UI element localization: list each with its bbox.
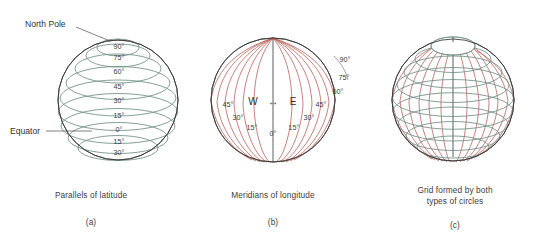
- panel-b-caption: Meridians of longitude: [182, 190, 364, 201]
- north-pole-label: North Pole: [25, 19, 66, 29]
- direction-indicator: W ↔ E: [248, 96, 296, 107]
- north-pole-point: [271, 37, 274, 40]
- latitude-label-0: 0°: [116, 125, 123, 134]
- latitude-label-60: 60°: [114, 67, 125, 76]
- longitude-label-90: 90°: [340, 55, 351, 64]
- panel-a-caption: Parallels of latitude: [0, 190, 182, 201]
- latitude-label-15s: 15°: [114, 137, 125, 146]
- panel-c-caption-line2: types of circles: [364, 196, 545, 207]
- latitude-label-30n: 30°: [114, 96, 125, 105]
- panel-b-illustration: W ↔ E 45° 30° 15° 0° 15° 30° 45°: [182, 0, 364, 186]
- latitude-label-75: 75°: [114, 53, 125, 62]
- west-label: W: [248, 96, 258, 107]
- longitude-arc-annotation: 90° 75° 60°: [333, 55, 351, 96]
- latitude-label-90: 90°: [114, 42, 125, 51]
- globe-figure: North Pole Equator 90° 75° 60° 45° 30° 1…: [0, 0, 545, 240]
- longitude-label-45w: 45°: [223, 100, 234, 109]
- north-pole-leader: [76, 27, 110, 41]
- panel-c-illustration: [364, 0, 545, 186]
- panel-a-illustration: North Pole Equator 90° 75° 60° 45° 30° 1…: [0, 0, 182, 186]
- panel-b-letter: (b): [182, 217, 364, 228]
- east-label: E: [290, 96, 297, 107]
- panel-parallels-of-latitude: North Pole Equator 90° 75° 60° 45° 30° 1…: [0, 0, 182, 240]
- panel-c-letter: (c): [364, 220, 545, 231]
- longitude-label-15e: 15°: [289, 123, 300, 132]
- longitude-label-45e: 45°: [316, 100, 327, 109]
- panel-grid-of-both-circles: Grid formed by both types of circles (c): [364, 0, 545, 240]
- panel-meridians-of-longitude: W ↔ E 45° 30° 15° 0° 15° 30° 45°: [182, 0, 364, 240]
- globe-c: [392, 37, 514, 162]
- latitude-label-30s: 30°: [114, 148, 125, 157]
- longitude-label-30e: 30°: [304, 113, 315, 122]
- direction-arrow-icon: ↔: [268, 96, 278, 107]
- equator-label: Equator: [10, 126, 40, 136]
- latitude-label-15n: 15°: [114, 111, 125, 120]
- longitude-label-0: 0°: [270, 129, 277, 138]
- panel-a-letter: (a): [0, 217, 182, 228]
- panel-c-caption-line1: Grid formed by both: [364, 185, 545, 196]
- longitude-label-30w: 30°: [233, 113, 244, 122]
- latitude-label-45: 45°: [114, 82, 125, 91]
- longitude-label-60: 60°: [333, 87, 344, 96]
- longitude-label-15w: 15°: [247, 123, 258, 132]
- longitude-label-75: 75°: [339, 73, 350, 82]
